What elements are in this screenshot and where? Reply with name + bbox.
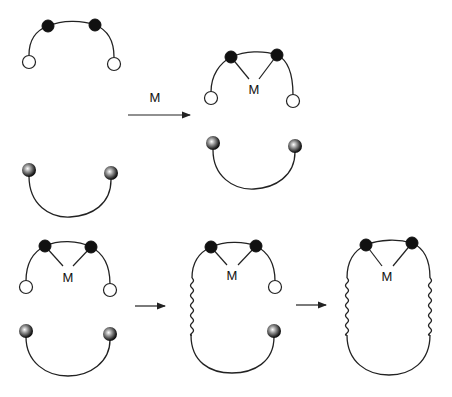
metal-complex: M	[205, 49, 300, 108]
u-linker	[206, 136, 302, 189]
linker-backbone	[29, 176, 111, 217]
binding-site-dot	[39, 240, 51, 252]
metal-label: M	[227, 268, 238, 283]
wavy-bond	[429, 278, 432, 335]
open-end-circle	[205, 92, 218, 105]
binding-site-dot	[205, 241, 217, 253]
open-end-circle	[23, 56, 36, 69]
shaded-ball-end	[22, 163, 36, 177]
reagent-label: M	[150, 90, 161, 105]
open-end-circle	[287, 95, 300, 108]
binding-site-dot	[406, 237, 418, 249]
binding-site-dot	[42, 20, 54, 32]
binding-site-dot	[271, 49, 283, 61]
wavy-bond	[191, 278, 194, 335]
linker-backbone	[347, 335, 430, 375]
shaded-ball-end	[103, 327, 117, 341]
binding-site-dot	[85, 241, 97, 253]
shaded-ball-end	[104, 166, 118, 180]
closed-macrocycle: M	[346, 237, 432, 375]
u-linker	[22, 163, 118, 217]
binding-site-dot	[360, 239, 372, 251]
linker-backbone	[26, 337, 110, 376]
binding-site-dot	[250, 240, 262, 252]
metal-label: M	[382, 269, 393, 284]
open-end-circle	[20, 281, 33, 294]
metal-label: M	[249, 82, 260, 97]
metal-complex: M	[20, 240, 117, 297]
open-end-circle	[108, 58, 121, 71]
shaded-ball-end	[267, 324, 281, 338]
binding-site-dot	[225, 51, 237, 63]
binding-site-dot	[89, 19, 101, 31]
wavy-bond	[346, 278, 349, 335]
linker-backbone	[191, 335, 274, 373]
linker-backbone	[213, 150, 295, 189]
shaded-ball-end	[288, 139, 302, 153]
assembly-diagram: M M M	[0, 0, 452, 397]
half-coupled-macrocycle: M	[191, 240, 282, 373]
metal-label: M	[63, 270, 74, 285]
shaded-ball-end	[206, 136, 220, 150]
open-end-circle	[269, 281, 282, 294]
free-ligand	[23, 19, 121, 71]
shaded-ball-end	[19, 324, 33, 338]
open-end-circle	[104, 284, 117, 297]
reaction-arrow-1: M	[128, 90, 190, 115]
u-linker	[19, 324, 117, 376]
